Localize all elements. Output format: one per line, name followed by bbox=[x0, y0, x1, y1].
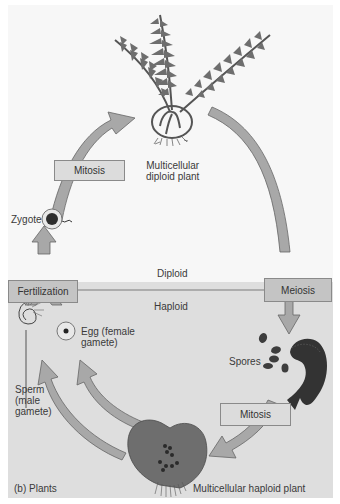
haploid-plant-label: Multicellular haploid plant bbox=[193, 483, 305, 494]
process-label: Fertilization bbox=[17, 286, 68, 297]
process-box-meiosis: Meiosis bbox=[264, 278, 332, 302]
diploid-region-label: Diploid bbox=[157, 268, 188, 279]
egg-label: Egg (female gamete) bbox=[81, 326, 135, 348]
figure-caption: (b) Plants bbox=[14, 483, 57, 494]
zygote-label: Zygote bbox=[11, 214, 42, 225]
process-box-mitosis-bottom: Mitosis bbox=[220, 403, 291, 426]
haploid-region-label: Haploid bbox=[154, 301, 188, 312]
process-label: Mitosis bbox=[240, 409, 271, 420]
diagram-graphics bbox=[0, 0, 340, 504]
sperm-label: Sperm (male gamete) bbox=[15, 384, 52, 417]
egg-illustration bbox=[57, 322, 75, 340]
process-box-mitosis-top: Mitosis bbox=[54, 160, 125, 181]
plant-life-cycle-diagram: Mitosis Fertilization Meiosis Mitosis Di… bbox=[0, 0, 340, 504]
process-box-fertilization: Fertilization bbox=[8, 280, 78, 303]
process-label: Meiosis bbox=[281, 285, 315, 296]
spores-label: Spores bbox=[229, 356, 261, 367]
process-label: Mitosis bbox=[74, 165, 105, 176]
diploid-plant-label: Multicellular diploid plant bbox=[146, 160, 199, 182]
